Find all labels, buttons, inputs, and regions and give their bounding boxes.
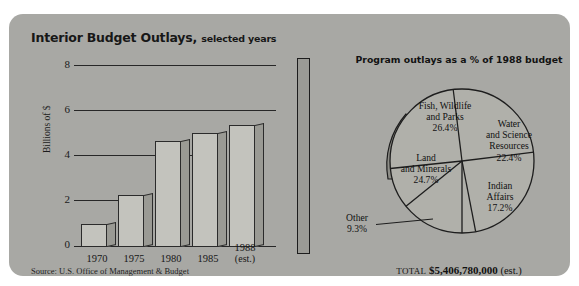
gridline-8 [74, 65, 276, 66]
bar-1980-face [155, 141, 181, 247]
bar-1980: 1980 [155, 141, 181, 247]
pie-label-land-minerals: Land and Minerals 24.7% [388, 152, 464, 186]
bar-chart-title: Interior Budget Outlays, selected years [31, 30, 276, 45]
bar-1975-side [144, 193, 153, 247]
x-tick-1988-year: 1988 [235, 242, 256, 253]
source-note: Source: U.S. Office of Management & Budg… [31, 266, 189, 276]
bar-chart-title-sub: selected years [201, 33, 276, 44]
infographic-panel: Interior Budget Outlays, selected years … [9, 14, 570, 276]
pie-total: TOTAL $5,406,780,000 (est.) [339, 264, 579, 276]
pie-label-water-science-resources: Water and Science Resources 22.4% [476, 118, 542, 163]
bar-chart-plot: Billions of $ 8 6 4 2 0 1970 1975 [56, 57, 276, 247]
x-tick-1988: 1988 (est.) [222, 242, 268, 264]
bar-chart-title-main: Interior Budget Outlays, [31, 30, 197, 45]
bar-1988-face [229, 125, 255, 247]
bar-1975-face [118, 195, 144, 247]
screenshot-root: Interior Budget Outlays, selected years … [0, 0, 579, 286]
bar-1970-side [107, 222, 116, 247]
pie-total-amount: $5,406,780,000 [429, 264, 498, 276]
bar-1985-side [218, 131, 227, 247]
pie-chart-title: Program outlays as a % of 1988 budget [339, 54, 579, 65]
pie-total-label: TOTAL [396, 266, 426, 276]
pie-chart: Fish, Wildlife and Parks 26.4% Water and… [376, 76, 546, 246]
bar-1975: 1975 [118, 195, 144, 247]
y-tick-8: 8 [56, 58, 70, 70]
bar-1970: 1970 [81, 224, 107, 247]
gridline-6 [74, 110, 276, 111]
y-tick-4: 4 [56, 148, 70, 160]
bar-1988-side [255, 123, 264, 247]
y-tick-0: 0 [56, 238, 70, 250]
bar-1970-face [81, 224, 107, 247]
bar-1985-face [192, 133, 218, 247]
pie-label-other: Other 9.3% [332, 212, 382, 234]
pie-total-note: (est.) [500, 265, 521, 276]
vertical-divider-bar [297, 58, 310, 254]
y-tick-6: 6 [56, 103, 70, 115]
bar-1980-side [181, 139, 190, 247]
pie-label-indian-affairs: Indian Affairs 17.2% [472, 180, 528, 214]
bar-1985: 1985 [192, 133, 218, 247]
y-tick-2: 2 [56, 193, 70, 205]
bar-1988: 1988 (est.) [229, 125, 255, 247]
x-tick-1988-est: (est.) [222, 253, 268, 264]
y-axis-label: Billions of $ [42, 105, 52, 153]
